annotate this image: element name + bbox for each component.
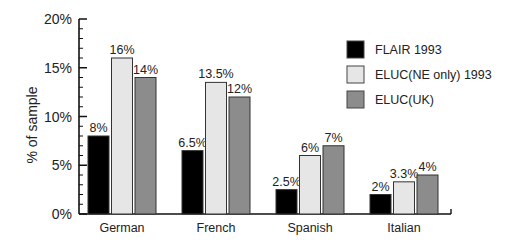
- y-tick-label: 5%: [52, 157, 72, 173]
- bar-group-italian: 2%3.3%4%Italian: [370, 160, 438, 235]
- bar-group-spanish: 2.5%6%7%Spanish: [272, 131, 344, 235]
- bar: [182, 151, 203, 214]
- bar: [276, 190, 297, 214]
- legend-label: ELUC(NE only) 1993: [375, 68, 492, 82]
- legend-item: ELUC(NE only) 1993: [347, 66, 492, 83]
- y-axis-label: % of sample: [24, 86, 40, 163]
- bar-chart: 0%5%10%15%20% 8%16%14%German6.5%13.5%12%…: [0, 0, 521, 244]
- bar-value-label: 6%: [301, 141, 319, 155]
- category-label: Italian: [387, 221, 420, 235]
- bar: [229, 97, 250, 214]
- legend-swatch: [347, 91, 364, 108]
- bar-value-label: 7%: [324, 131, 342, 145]
- bar: [417, 175, 438, 214]
- bar: [323, 146, 344, 214]
- bar-value-label: 2.5%: [272, 175, 301, 189]
- category-label: French: [197, 221, 236, 235]
- legend: FLAIR 1993ELUC(NE only) 1993ELUC(UK): [347, 41, 492, 108]
- bar-value-label: 4%: [418, 160, 436, 174]
- category-label: Spanish: [287, 221, 332, 235]
- bar-group-french: 6.5%13.5%12%French: [178, 67, 252, 235]
- bar-value-label: 14%: [133, 63, 158, 77]
- y-tick-label: 20%: [44, 11, 72, 27]
- legend-item: FLAIR 1993: [347, 41, 442, 58]
- bar-value-label: 3.3%: [390, 167, 419, 181]
- bar-value-label: 13.5%: [198, 67, 233, 81]
- bar: [206, 82, 227, 214]
- category-label: German: [99, 221, 144, 235]
- bar-value-label: 16%: [109, 43, 134, 57]
- legend-item: ELUC(UK): [347, 91, 434, 108]
- bar-value-label: 12%: [227, 82, 252, 96]
- bar-value-label: 6.5%: [178, 136, 207, 150]
- bar: [394, 182, 415, 214]
- bar: [370, 195, 391, 215]
- legend-swatch: [347, 41, 364, 58]
- bar: [88, 136, 109, 214]
- bar-group-german: 8%16%14%German: [88, 43, 158, 235]
- bar-value-label: 8%: [89, 121, 107, 135]
- legend-label: FLAIR 1993: [375, 43, 442, 57]
- bar: [135, 78, 156, 215]
- legend-swatch: [347, 66, 364, 83]
- bar: [112, 58, 133, 214]
- bar-value-label: 2%: [371, 180, 389, 194]
- y-tick-label: 0%: [52, 206, 72, 222]
- legend-label: ELUC(UK): [375, 93, 434, 107]
- y-tick-label: 15%: [44, 60, 72, 76]
- bar: [300, 156, 321, 215]
- y-tick-label: 10%: [44, 109, 72, 125]
